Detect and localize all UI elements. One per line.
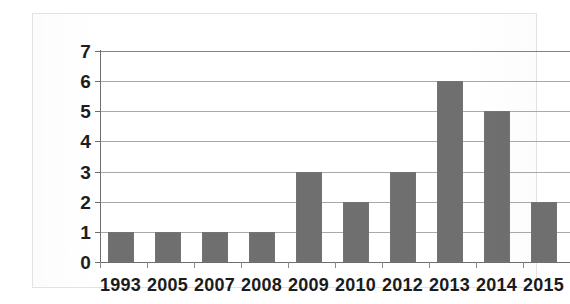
bar-2012[interactable] (390, 172, 416, 262)
x-tick-mark-5 (335, 262, 336, 268)
bar-2010[interactable] (343, 202, 369, 262)
x-axis-label-2008: 2008 (241, 276, 282, 294)
x-axis-label-2012: 2012 (382, 276, 423, 294)
y-axis-label-0: 0 (80, 253, 91, 272)
x-tick-mark-1 (147, 262, 148, 268)
x-axis-label-2013: 2013 (429, 276, 470, 294)
y-axis-label-2: 2 (80, 192, 91, 211)
y-tick-mark-4 (95, 141, 101, 142)
x-axis-label-2009: 2009 (288, 276, 329, 294)
y-tick-mark-6 (95, 81, 101, 82)
x-axis-tick-labels: 1993200520072008200920102012201320142015 (100, 276, 570, 300)
x-tick-mark-2 (194, 262, 195, 268)
x-tick-mark-6 (382, 262, 383, 268)
y-axis-label-3: 3 (80, 162, 91, 181)
y-axis-label-5: 5 (80, 102, 91, 121)
chart-frame: 01234567 1993200520072008200920102012201… (32, 13, 537, 288)
bar-2007[interactable] (202, 232, 228, 262)
x-tick-mark-4 (288, 262, 289, 268)
x-tick-mark-0 (100, 262, 101, 268)
x-tick-mark-8 (476, 262, 477, 268)
bar-2014[interactable] (484, 111, 510, 262)
x-tick-mark-7 (429, 262, 430, 268)
y-tick-mark-1 (95, 232, 101, 233)
x-tick-mark-9 (523, 262, 524, 268)
y-axis-label-4: 4 (80, 132, 91, 151)
y-axis-label-7: 7 (80, 42, 91, 61)
x-axis-label-2005: 2005 (147, 276, 188, 294)
x-axis-label-1993: 1993 (100, 276, 141, 294)
gridline-7 (100, 51, 570, 52)
bar-1993[interactable] (108, 232, 134, 262)
y-tick-mark-3 (95, 172, 101, 173)
x-axis-label-2007: 2007 (194, 276, 235, 294)
x-axis-label-2010: 2010 (335, 276, 376, 294)
y-axis-label-6: 6 (80, 72, 91, 91)
gridline-6 (100, 81, 570, 82)
x-axis-label-2014: 2014 (476, 276, 517, 294)
x-axis-label-2015: 2015 (523, 276, 564, 294)
y-tick-mark-2 (95, 202, 101, 203)
y-tick-mark-5 (95, 111, 101, 112)
bar-2013[interactable] (437, 81, 463, 262)
bar-2015[interactable] (531, 202, 557, 262)
plot-area: 01234567 (100, 51, 570, 262)
bar-2005[interactable] (155, 232, 181, 262)
y-tick-mark-7 (95, 51, 101, 52)
bar-2009[interactable] (296, 172, 322, 262)
bar-2008[interactable] (249, 232, 275, 262)
x-tick-mark-3 (241, 262, 242, 268)
y-axis-label-1: 1 (80, 222, 91, 241)
